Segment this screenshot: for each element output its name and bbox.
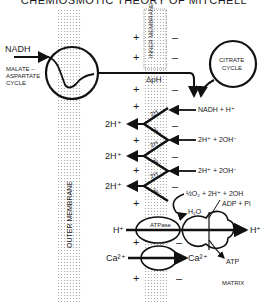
shuttle-label-2: ASPARTATE	[6, 73, 40, 79]
reaction-water-split-2: 2H⁺ + 2OH⁻	[198, 167, 237, 175]
adp-pi-label: ADP + Pi	[222, 200, 250, 207]
matrix-label: MATRIX	[222, 280, 244, 286]
shuttle-label-3: CYCLE	[6, 80, 26, 86]
proton-out-3: 2H⁺	[105, 181, 122, 191]
proton-out-1: 2H⁺	[105, 119, 122, 129]
reaction-water-split-1: 2H⁺ + 2OH⁻	[198, 136, 237, 144]
minus-sign: –	[176, 272, 182, 284]
minus-sign: –	[172, 180, 178, 192]
plus-sign: +	[133, 197, 139, 209]
delta-ph-label: ΔpH	[146, 75, 162, 84]
minus-sign: –	[172, 51, 178, 63]
shuttle-label-1: MALATE –	[6, 66, 35, 72]
water-label: H₂O	[188, 208, 201, 215]
plus-sign: +	[133, 164, 139, 176]
citrate-label-2: CYCLE	[222, 65, 242, 71]
calcium-matrix-label: Ca²⁺	[188, 253, 208, 263]
minus-sign: –	[172, 31, 178, 43]
plus-sign: +	[133, 100, 139, 112]
atp-label: ATP	[226, 258, 239, 265]
minus-sign: –	[172, 119, 178, 131]
proton-in-label: H⁺	[113, 225, 125, 235]
reaction-oxygen: ½O₂ + 2H⁺ + 2OH	[186, 190, 243, 198]
inner-membrane-label: INNER MEMBRANE	[148, 3, 154, 58]
plus-sign: +	[133, 134, 139, 146]
plus-sign: +	[133, 236, 139, 248]
proton-out-2: 2H⁺	[105, 151, 122, 161]
citrate-label-1: CITRATE	[219, 57, 244, 63]
outer-membrane	[58, 8, 82, 304]
nadh-label: NADH	[5, 44, 31, 54]
outer-membrane-label: OUTER MEMBRANE	[66, 181, 73, 248]
reaction-nadh: NADH + H⁺	[198, 106, 235, 114]
minus-sign: –	[172, 83, 178, 95]
plus-sign: +	[133, 83, 139, 95]
minus-sign: –	[172, 150, 178, 162]
diagram-title: CHEMIOSMOTIC THEORY OF MITCHELL	[0, 0, 268, 6]
minus-sign: –	[176, 236, 182, 248]
atpase-label: ATPase	[150, 222, 171, 228]
plus-sign: +	[133, 272, 139, 284]
calcium-in-label: Ca²⁺	[106, 253, 126, 263]
plus-sign: +	[133, 31, 139, 43]
proton-matrix-label: H⁺	[250, 225, 262, 235]
plus-sign: +	[133, 51, 139, 63]
citrate-cycle	[210, 41, 256, 87]
